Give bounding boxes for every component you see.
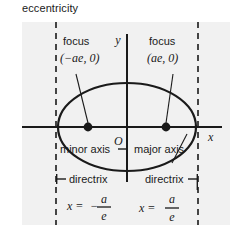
right-focus-leader-line: [166, 74, 173, 123]
ellipse-eccentricity-diagram: y x O focus (−ae, 0) focus (ae, 0) minor…: [22, 22, 230, 225]
left-focus-title: focus: [63, 35, 90, 47]
left-directrix-equation-sign: −: [90, 199, 98, 213]
y-axis-label: y: [114, 33, 121, 47]
right-directrix-numerator: a: [169, 192, 175, 206]
right-directrix-denominator: e: [169, 210, 175, 224]
major-axis-label: major axis: [134, 143, 185, 155]
left-directrix-denominator: e: [101, 209, 107, 223]
left-directrix-numerator: a: [101, 192, 107, 206]
left-directrix-title: directrix: [69, 173, 108, 185]
left-focus-leader-line: [76, 74, 88, 123]
right-directrix-equation-lhs: x =: [138, 201, 155, 215]
x-axis-label: x: [207, 130, 214, 144]
origin-label: O: [114, 134, 123, 148]
right-directrix-title: directrix: [145, 173, 184, 185]
minor-axis-label: minor axis: [60, 143, 111, 155]
right-focus-coords: (ae, 0): [147, 51, 178, 65]
left-directrix-equation-lhs: x =: [66, 199, 83, 213]
figure-caption: eccentricity: [22, 2, 78, 14]
left-focus-point: [84, 123, 93, 132]
left-focus-coords: (−ae, 0): [60, 51, 99, 65]
right-focus-point: [162, 123, 171, 132]
right-focus-title: focus: [149, 35, 176, 47]
